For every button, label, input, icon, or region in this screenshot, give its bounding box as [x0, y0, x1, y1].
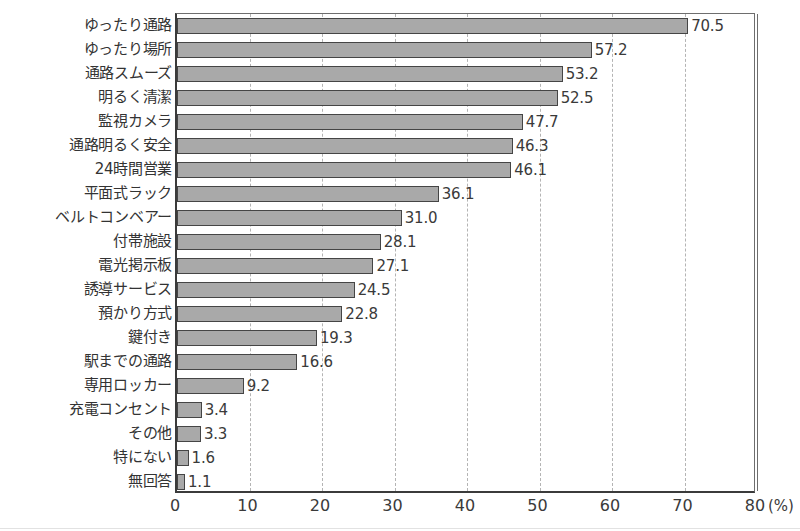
bar-row: 70.5 [177, 14, 754, 38]
category-label: ゆったり通路 [2, 13, 172, 37]
bar [177, 186, 439, 202]
bar-row: 3.3 [177, 422, 754, 446]
category-label: 付帯施設 [2, 229, 172, 253]
category-label: 平面式ラック [2, 181, 172, 205]
bar-row: 36.1 [177, 182, 754, 206]
bar-row: 57.2 [177, 38, 754, 62]
category-label: 特にない [2, 445, 172, 469]
bar [177, 282, 355, 298]
x-tick-label-70: 70 [672, 495, 692, 517]
category-label: 預かり方式 [2, 301, 172, 325]
bar-value-label: 3.3 [204, 425, 227, 443]
bar [177, 66, 563, 82]
bar [177, 258, 373, 274]
bar-row: 46.1 [177, 158, 754, 182]
bar [177, 354, 297, 370]
bar-value-label: 1.6 [192, 449, 215, 467]
bar [177, 450, 189, 466]
bar [177, 162, 511, 178]
x-tick-label-50: 50 [527, 495, 547, 517]
x-tick-label-0: 0 [170, 495, 180, 517]
bar-value-label: 19.3 [320, 329, 353, 347]
category-label: 充電コンセント [2, 397, 172, 421]
bar-row: 3.4 [177, 398, 754, 422]
bar-value-label: 28.1 [384, 233, 417, 251]
bar-row: 52.5 [177, 86, 754, 110]
bar-row: 1.6 [177, 446, 754, 470]
category-label: 電光掲示板 [2, 253, 172, 277]
bar-value-label: 31.0 [405, 209, 438, 227]
category-label: 駅までの通路 [2, 349, 172, 373]
x-tick-label-20: 20 [310, 495, 330, 517]
bar-row: 53.2 [177, 62, 754, 86]
bar [177, 42, 592, 58]
bar-value-label: 24.5 [358, 281, 391, 299]
category-label: 24時間営業 [2, 157, 172, 181]
bar [177, 210, 402, 226]
bar-value-label: 9.2 [247, 377, 270, 395]
bar-value-label: 22.8 [345, 305, 378, 323]
x-tick-label-10: 10 [237, 495, 257, 517]
x-tick-label-60: 60 [600, 495, 620, 517]
bar-row: 9.2 [177, 374, 754, 398]
bar [177, 426, 201, 442]
bar-value-label: 57.2 [595, 41, 628, 59]
bar-value-label: 53.2 [566, 65, 599, 83]
bar [177, 114, 523, 130]
gridline-80 [757, 14, 758, 491]
bar-value-label: 1.1 [188, 473, 211, 491]
bar-value-label: 3.4 [205, 401, 228, 419]
x-tick-label-40: 40 [455, 495, 475, 517]
bar-row: 1.1 [177, 470, 754, 494]
category-label: ゆったり場所 [2, 37, 172, 61]
category-label: 専用ロッカー [2, 373, 172, 397]
bar-row: 19.3 [177, 326, 754, 350]
bar [177, 474, 185, 490]
bar [177, 234, 381, 250]
bar-chart-figure: ゆったり通路ゆったり場所通路スムーズ明るく清潔監視カメラ通路明るく安全24時間営… [0, 0, 800, 531]
bar-value-label: 52.5 [561, 89, 594, 107]
bar-value-label: 46.3 [516, 137, 549, 155]
category-label: 通路スムーズ [2, 61, 172, 85]
plot-area: 70.557.253.252.547.746.346.136.131.028.1… [175, 13, 755, 493]
bar-value-label: 16.6 [300, 353, 333, 371]
bar [177, 138, 513, 154]
category-label: 無回答 [2, 469, 172, 493]
scan-artifact-line [0, 528, 800, 529]
bar-row: 47.7 [177, 110, 754, 134]
bar-row: 46.3 [177, 134, 754, 158]
bar [177, 18, 688, 34]
x-tick-label-30: 30 [382, 495, 402, 517]
category-label: 誘導サービス [2, 277, 172, 301]
x-axis-unit-label: (%) [768, 495, 794, 517]
bar-row: 28.1 [177, 230, 754, 254]
bar [177, 402, 202, 418]
bar-row: 27.1 [177, 254, 754, 278]
bar [177, 306, 342, 322]
bar-value-label: 27.1 [376, 257, 409, 275]
category-label: 明るく清潔 [2, 85, 172, 109]
bar-row: 16.6 [177, 350, 754, 374]
category-axis-labels: ゆったり通路ゆったり場所通路スムーズ明るく清潔監視カメラ通路明るく安全24時間営… [0, 13, 172, 493]
bar-value-label: 46.1 [514, 161, 547, 179]
bar [177, 90, 558, 106]
bar [177, 378, 244, 394]
bar-row: 22.8 [177, 302, 754, 326]
bar-row: 31.0 [177, 206, 754, 230]
category-label: ベルトコンベアー [2, 205, 172, 229]
category-label: その他 [2, 421, 172, 445]
bar-value-label: 47.7 [526, 113, 559, 131]
x-axis: 01020304050607080(%) [175, 495, 755, 521]
bar [177, 330, 317, 346]
category-label: 鍵付き [2, 325, 172, 349]
category-label: 通路明るく安全 [2, 133, 172, 157]
bar-value-label: 70.5 [691, 17, 724, 35]
category-label: 監視カメラ [2, 109, 172, 133]
bar-value-label: 36.1 [442, 185, 475, 203]
x-tick-label-80: 80 [745, 495, 765, 517]
bar-row: 24.5 [177, 278, 754, 302]
